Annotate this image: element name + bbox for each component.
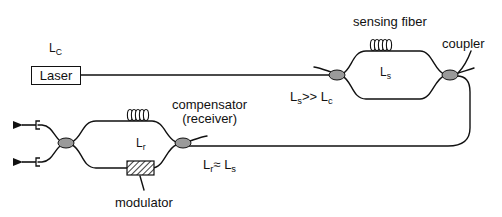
modulator-label: modulator	[115, 196, 173, 209]
reference-length-label: Lr	[136, 137, 146, 152]
sensing-arm-upper	[342, 51, 444, 74]
modulator-block	[127, 161, 154, 175]
reference-arm-upper	[72, 121, 176, 142]
output-fiber-upper	[38, 125, 60, 141]
sensing-length-label: Ls	[380, 66, 391, 81]
coupler-label: coupler	[442, 37, 485, 50]
compensator-label: compensator (receiver)	[172, 98, 247, 125]
sensing-fiber-coil-icon	[370, 40, 391, 51]
output-fiber-lower	[38, 146, 60, 162]
sensing-fiber-label: sensing fiber	[353, 15, 427, 28]
coupler-compensator-output	[58, 138, 74, 148]
coherence-length-label: LC	[49, 42, 62, 57]
reference-arm-lower	[72, 145, 176, 168]
laser-label: Laser	[40, 68, 73, 83]
coupler-sensing-output	[442, 70, 458, 80]
condition-lr-approx-ls: Lr≈ Ls	[203, 158, 236, 175]
condition-ls-much-greater-lc: Ls>> Lc	[290, 90, 333, 107]
coupler-sensing-input	[329, 70, 345, 80]
reference-fiber-coil-icon	[127, 110, 148, 121]
laser-source: Laser	[31, 66, 81, 85]
interferometer-diagram	[0, 0, 502, 217]
sensing-arm-lower	[342, 76, 444, 99]
coupler-compensator-input	[175, 138, 191, 148]
